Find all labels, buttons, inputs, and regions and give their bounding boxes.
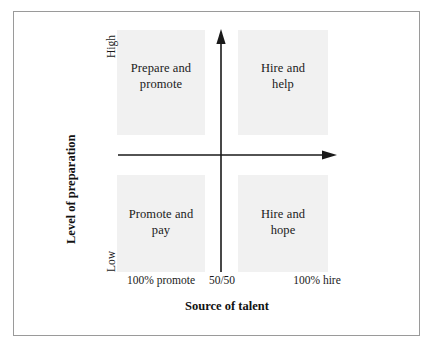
y-axis-arrowhead-icon xyxy=(216,29,225,44)
quadrant-label-line2: pay xyxy=(117,222,205,238)
y-axis-tick-bottom: Low xyxy=(105,251,117,272)
talent-matrix-figure: Prepare and promote Hire and help Promot… xyxy=(0,0,431,346)
y-axis-title: Level of preparation xyxy=(64,135,79,244)
quadrant-label-line1: Prepare and xyxy=(117,60,205,76)
x-axis-tick-right: 100% hire xyxy=(266,274,368,286)
plot-area: Prepare and promote Hire and help Promot… xyxy=(0,0,431,346)
quadrant-label-top-left: Prepare and promote xyxy=(117,60,205,92)
quadrant-label-bottom-right: Hire and hope xyxy=(238,206,328,238)
x-axis-tick-center: 50/50 xyxy=(196,274,248,286)
quadrant-label-top-right: Hire and help xyxy=(238,60,328,92)
x-axis-title: Source of talent xyxy=(118,299,336,314)
quadrant-label-line2: help xyxy=(238,76,328,92)
quadrant-label-line1: Promote and xyxy=(117,206,205,222)
quadrant-label-line1: Hire and xyxy=(238,60,328,76)
quadrant-label-line2: promote xyxy=(117,76,205,92)
quadrant-label-line2: hope xyxy=(238,222,328,238)
quadrant-label-bottom-left: Promote and pay xyxy=(117,206,205,238)
quadrant-label-line1: Hire and xyxy=(238,206,328,222)
y-axis-tick-top: High xyxy=(105,35,117,58)
x-axis-arrowhead-icon xyxy=(322,150,337,159)
